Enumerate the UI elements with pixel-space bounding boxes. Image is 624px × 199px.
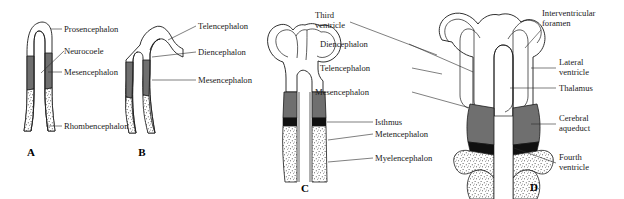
label-interventricular-foramen-line1: Interventricular [542,8,596,18]
panel-a-rhombencephalon-left [24,89,34,131]
panel-letter-a: A [27,146,35,158]
label-telencephalon-b: Telencephalon [198,21,249,31]
panel-b-mesencephalon-left [126,62,133,98]
label-myelencephalon: Myelencephalon [375,153,433,163]
label-lateral-ventricle-line2: ventricle [559,67,589,77]
label-mesencephalon-d: Mesencephalon [315,87,370,97]
panel-a-mesencephalon-right [45,53,52,89]
panel-a: Prosencephalon Neurocoele Mesencephalon … [24,22,129,158]
label-rhombencephalon: Rhombencephalon [64,121,129,131]
panel-d-fourth-ventricle [494,155,513,199]
label-metencephalon: Metencephalon [375,129,429,139]
panel-a-leader-neurocoele [41,51,64,73]
panel-c-metencephalon-left [283,126,297,182]
label-third-ventricle-line2: ventricle [315,20,345,30]
label-prosencephalon: Prosencephalon [64,24,119,34]
panel-letter-c: C [301,182,309,194]
label-interventricular-foramen-line2: foramen [542,18,571,28]
panel-d: Interventricular foramen Lateral ventric… [439,8,595,199]
label-fourth-ventricle-line2: ventricle [559,162,589,172]
panel-c-isthmus-right [312,118,326,126]
panel-d-telencephalon-outer [439,13,545,116]
label-third-ventricle-line1: Third [315,10,335,20]
leader-mesencephalon-d [412,92,470,108]
panel-d-mesencephalon-left [467,104,494,145]
panel-c-isthmus-left [283,118,297,126]
label-mesencephalon-a: Mesencephalon [64,67,119,77]
panel-b-rhombencephalon-right [143,95,155,133]
panel-b: Telencephalon Diencephalon Mesencephalon… [126,21,253,158]
panel-c-leader-myelencephalon [328,158,373,162]
panel-d-mesencephalon-right [513,104,540,145]
panel-d-myelencephalon-left [467,170,494,199]
panel-b-leader-diencephalon [152,52,196,57]
panel-c-metencephalon-right [312,126,327,182]
label-thalamus: Thalamus [559,83,594,93]
label-cerebral-aqueduct-line1: Cerebral [559,113,589,123]
panel-b-mesencephalon-right [143,60,150,96]
panel-c-leader-metencephalon [328,134,373,140]
panel-c-central-canal [299,92,310,182]
panel-b-leader-telencephalon [168,26,196,40]
brain-development-figure: Prosencephalon Neurocoele Mesencephalon … [0,0,624,199]
label-fourth-ventricle-line1: Fourth [559,152,583,162]
panel-c: Isthmus Metencephalon Myelencephalon C [268,24,433,194]
label-diencephalon-d: Diencephalon [320,39,368,49]
panel-a-rhombencephalon-right [45,88,55,131]
leader-telencephalon-d [412,68,442,74]
label-lateral-ventricle-line1: Lateral [559,57,584,67]
panel-letter-d: D [530,181,538,193]
panel-letter-b: B [138,146,146,158]
label-telencephalon-d: Telencephalon [320,63,371,73]
label-cerebral-aqueduct-line2: aqueduct [559,123,591,133]
label-isthmus: Isthmus [375,117,403,127]
label-neurocoele: Neurocoele [64,46,104,56]
panel-c-mesencephalon-left [283,92,297,118]
panel-a-mesencephalon-left [27,56,34,90]
label-diencephalon-b: Diencephalon [198,47,246,57]
panel-d-third-ventricle [494,45,513,116]
label-mesencephalon-b: Mesencephalon [198,75,253,85]
